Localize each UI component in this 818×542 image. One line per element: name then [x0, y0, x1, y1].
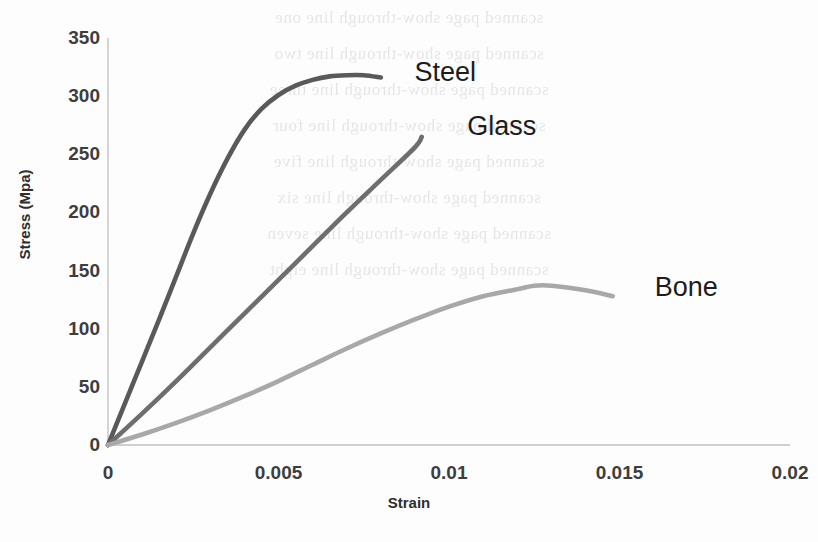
stress-strain-chart: 050100150200250300350 00.0050.010.0150.0…	[0, 0, 818, 542]
y-tick-label: 250	[40, 144, 100, 163]
series-label-glass: Glass	[467, 113, 536, 140]
y-axis-title: Stress (Mpa)	[16, 125, 33, 305]
series-label-bone: Bone	[655, 274, 718, 301]
y-tick-label: 50	[40, 377, 100, 396]
x-tick-label: 0.02	[735, 463, 818, 482]
y-tick-label: 300	[40, 86, 100, 105]
y-axis-tick-labels: 050100150200250300350	[30, 0, 100, 542]
y-tick-label: 100	[40, 319, 100, 338]
chart-plot-area	[0, 0, 818, 542]
x-tick-label: 0.015	[565, 463, 675, 482]
series-label-steel: Steel	[414, 59, 476, 86]
x-tick-label: 0.01	[394, 463, 504, 482]
x-tick-label: 0	[53, 463, 163, 482]
y-tick-label: 350	[40, 28, 100, 47]
x-tick-label: 0.005	[224, 463, 334, 482]
x-axis-tick-labels: 00.0050.010.0150.02	[0, 463, 818, 489]
series-line-steel	[108, 75, 381, 445]
y-tick-label: 150	[40, 261, 100, 280]
x-axis-title: Strain	[0, 494, 818, 511]
series-line-bone	[108, 285, 613, 445]
y-tick-label: 200	[40, 202, 100, 221]
y-tick-label: 0	[40, 435, 100, 454]
series-line-glass	[108, 137, 422, 445]
